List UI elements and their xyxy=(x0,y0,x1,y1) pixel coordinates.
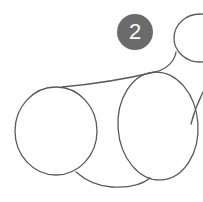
back-curve-shape xyxy=(62,52,176,87)
step-number-badge: 2 xyxy=(117,14,153,50)
center-oval-shape xyxy=(114,69,201,182)
head-oval-shape xyxy=(174,14,203,62)
drawing-canvas: 2 xyxy=(0,0,203,202)
belly-curve-shape xyxy=(76,172,150,187)
step-number: 2 xyxy=(129,21,141,43)
sketch-drawing xyxy=(0,0,203,202)
left-circle-shape xyxy=(15,87,97,175)
